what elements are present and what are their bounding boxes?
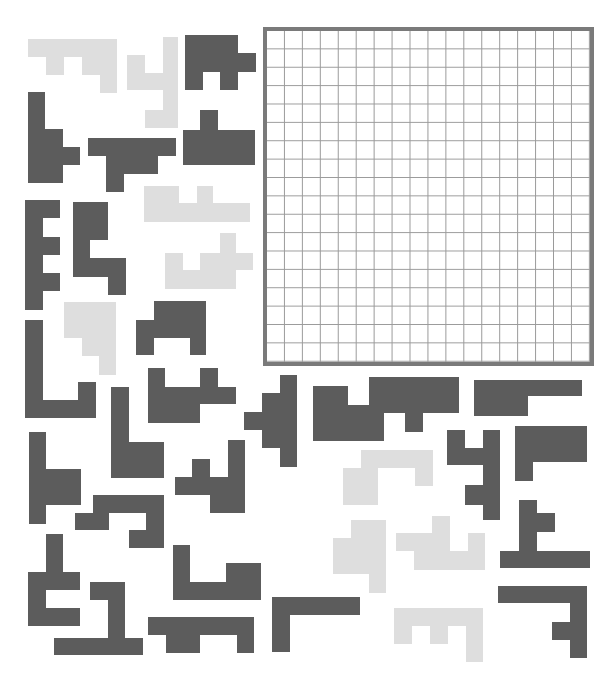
piece-block[interactable] [165, 253, 183, 270]
piece-block[interactable] [73, 202, 108, 240]
piece-block[interactable] [405, 413, 423, 432]
piece-block[interactable] [280, 375, 297, 467]
piece-block[interactable] [144, 203, 250, 222]
piece-block[interactable] [146, 513, 164, 548]
piece-block[interactable] [519, 500, 537, 552]
piece-block[interactable] [200, 253, 253, 270]
piece-block[interactable] [54, 638, 143, 655]
piece-block[interactable] [136, 338, 154, 355]
piece-block[interactable] [185, 72, 203, 90]
piece-block[interactable] [165, 387, 200, 423]
piece-block[interactable] [183, 130, 255, 165]
piece-block[interactable] [127, 55, 145, 90]
piece-block[interactable] [200, 387, 236, 404]
piece-block[interactable] [173, 582, 261, 600]
piece-block[interactable] [262, 393, 280, 448]
piece-block[interactable] [369, 574, 386, 593]
piece-block[interactable] [570, 603, 587, 658]
piece-block[interactable] [108, 277, 126, 295]
piece-block[interactable] [200, 368, 218, 387]
piece-block[interactable] [46, 57, 64, 75]
piece-block[interactable] [163, 37, 178, 128]
piece-block[interactable] [185, 35, 238, 72]
piece-block[interactable] [100, 75, 117, 93]
piece-block[interactable] [82, 57, 117, 75]
piece-block[interactable] [515, 462, 533, 481]
piece-block[interactable] [515, 426, 587, 462]
piece-block[interactable] [145, 73, 163, 90]
piece-block[interactable] [468, 533, 485, 551]
piece-block[interactable] [238, 53, 256, 72]
piece-block[interactable] [106, 174, 124, 192]
piece-block[interactable] [64, 302, 116, 338]
piece-block[interactable] [43, 273, 60, 291]
piece-block[interactable] [552, 622, 570, 640]
piece-block[interactable] [99, 356, 116, 375]
piece-block[interactable] [90, 582, 125, 600]
piece-block[interactable] [361, 450, 433, 468]
piece-block[interactable] [498, 586, 587, 603]
piece-block[interactable] [73, 240, 90, 277]
piece-block[interactable] [136, 320, 206, 338]
piece-block[interactable] [111, 387, 129, 478]
piece-block[interactable] [43, 400, 96, 418]
piece-block[interactable] [465, 448, 483, 465]
piece-block[interactable] [43, 200, 60, 218]
piece-block[interactable] [474, 396, 528, 416]
piece-block[interactable] [165, 270, 236, 289]
piece-block[interactable] [220, 233, 236, 253]
piece-block[interactable] [430, 626, 448, 644]
piece-block[interactable] [90, 258, 126, 277]
piece-block[interactable] [28, 92, 45, 183]
piece-block[interactable] [88, 138, 176, 156]
piece-block[interactable] [45, 129, 63, 183]
piece-block[interactable] [29, 432, 46, 524]
piece-block[interactable] [210, 495, 245, 513]
piece-block[interactable] [343, 468, 378, 505]
piece-block[interactable] [145, 110, 163, 128]
piece-block[interactable] [25, 200, 43, 310]
piece-block[interactable] [82, 338, 116, 356]
piece-block[interactable] [272, 597, 360, 615]
piece-block[interactable] [63, 147, 80, 165]
piece-block[interactable] [465, 485, 483, 505]
piece-block[interactable] [148, 617, 254, 635]
piece-block[interactable] [46, 469, 81, 505]
piece-block[interactable] [244, 412, 262, 430]
piece-block[interactable] [129, 442, 164, 478]
piece-block[interactable] [197, 186, 213, 203]
piece-block[interactable] [414, 551, 485, 570]
piece-block[interactable] [537, 513, 555, 532]
piece-block[interactable] [75, 513, 109, 530]
piece-block[interactable] [483, 430, 500, 520]
puzzle-board-grid[interactable] [263, 27, 594, 366]
piece-block[interactable] [474, 380, 582, 396]
piece-block[interactable] [226, 563, 261, 582]
piece-block[interactable] [394, 608, 483, 626]
piece-block[interactable] [351, 520, 386, 538]
piece-block[interactable] [369, 377, 459, 413]
piece-block[interactable] [78, 382, 96, 400]
piece-block[interactable] [43, 237, 60, 255]
piece-block[interactable] [313, 386, 348, 441]
piece-block[interactable] [272, 615, 290, 652]
piece-block[interactable] [220, 72, 238, 90]
piece-block[interactable] [28, 608, 80, 626]
piece-block[interactable] [46, 534, 63, 572]
piece-block[interactable] [28, 590, 46, 608]
piece-block[interactable] [108, 600, 125, 638]
piece-block[interactable] [93, 495, 164, 513]
piece-block[interactable] [148, 368, 165, 423]
piece-block[interactable] [106, 156, 158, 174]
piece-block[interactable] [500, 551, 590, 568]
piece-block[interactable] [192, 459, 210, 477]
piece-block[interactable] [466, 626, 483, 662]
piece-block[interactable] [28, 39, 117, 57]
piece-block[interactable] [190, 338, 206, 355]
piece-block[interactable] [129, 530, 146, 548]
piece-block[interactable] [415, 468, 433, 486]
piece-block[interactable] [237, 635, 254, 653]
piece-block[interactable] [28, 572, 80, 590]
piece-block[interactable] [396, 533, 450, 551]
piece-block[interactable] [25, 320, 43, 418]
